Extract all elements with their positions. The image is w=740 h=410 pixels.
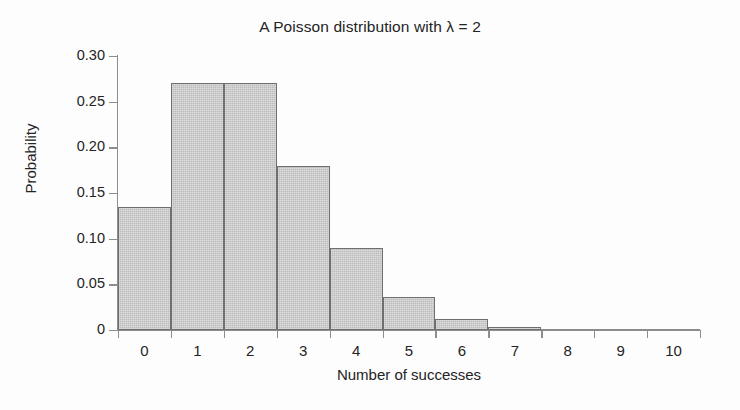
plot-area — [118, 56, 700, 330]
x-tick-label-5: 5 — [389, 342, 429, 359]
x-tick-edge-1 — [171, 330, 172, 338]
y-tick-0 — [109, 330, 117, 331]
x-tick-label-8: 8 — [548, 342, 588, 359]
x-tick-label-6: 6 — [442, 342, 482, 359]
x-tick-edge-8 — [541, 330, 542, 338]
chart-title: A Poisson distribution with λ = 2 — [0, 18, 740, 36]
x-tick-label-9: 9 — [601, 342, 641, 359]
y-tick-label-0.10: 0.10 — [0, 230, 105, 246]
x-axis-line — [117, 330, 701, 331]
x-tick-edge-6 — [435, 330, 436, 338]
bar-3 — [277, 166, 330, 330]
y-tick-0.15 — [109, 193, 117, 194]
x-tick-label-10: 10 — [654, 342, 694, 359]
x-tick-edge-5 — [383, 330, 384, 338]
y-tick-0.25 — [109, 102, 117, 103]
bar-4 — [330, 248, 383, 330]
y-tick-label-0.30: 0.30 — [0, 47, 105, 63]
x-tick-edge-10 — [647, 330, 648, 338]
x-tick-label-2: 2 — [230, 342, 270, 359]
y-tick-0.10 — [109, 239, 117, 240]
x-tick-label-7: 7 — [495, 342, 535, 359]
x-tick-label-3: 3 — [283, 342, 323, 359]
x-axis-title: Number of successes — [118, 366, 700, 383]
x-tick-edge-0 — [118, 330, 119, 338]
y-tick-label-0.05: 0.05 — [0, 275, 105, 291]
poisson-distribution-chart: A Poisson distribution with λ = 2 Probab… — [0, 0, 740, 410]
bar-2 — [224, 83, 277, 331]
y-tick-label-0.25: 0.25 — [0, 93, 105, 109]
y-tick-label-0.20: 0.20 — [0, 138, 105, 154]
x-tick-edge-11 — [700, 330, 701, 338]
y-tick-0.20 — [109, 147, 117, 148]
x-tick-edge-2 — [224, 330, 225, 338]
y-tick-label-0.15: 0.15 — [0, 184, 105, 200]
x-tick-edge-9 — [594, 330, 595, 338]
x-tick-edge-7 — [488, 330, 489, 338]
y-axis-line — [117, 55, 118, 331]
bar-5 — [383, 297, 436, 330]
bar-1 — [171, 83, 224, 331]
bar-0 — [118, 207, 171, 330]
x-tick-label-1: 1 — [177, 342, 217, 359]
y-tick-0.05 — [109, 284, 117, 285]
x-tick-edge-4 — [330, 330, 331, 338]
y-tick-0.30 — [109, 56, 117, 57]
x-tick-edge-3 — [277, 330, 278, 338]
y-tick-label-0: 0 — [0, 321, 105, 337]
x-tick-label-4: 4 — [336, 342, 376, 359]
x-tick-label-0: 0 — [124, 342, 164, 359]
bar-6 — [435, 319, 488, 330]
